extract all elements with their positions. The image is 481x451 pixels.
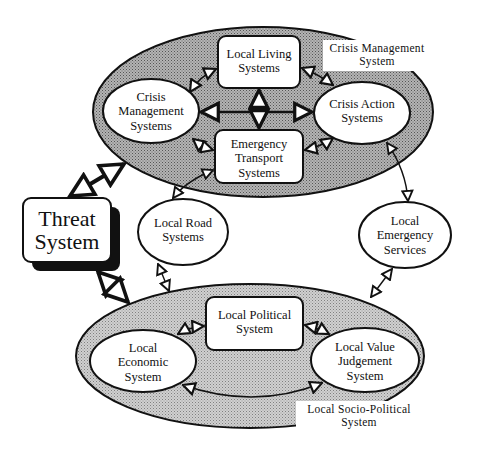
crisis-action-label: Crisis Action Systems <box>314 97 410 126</box>
label-line: Systems <box>103 119 199 133</box>
label-line: Systems <box>314 111 410 125</box>
threat-system-label: Threat System <box>23 207 111 253</box>
edge-threat-socio-group <box>98 272 128 302</box>
local-political-label: Local Political System <box>206 308 303 337</box>
label-line: Economic <box>90 355 196 369</box>
caption-line: System <box>298 416 420 429</box>
edge-threat-crisis-group <box>70 164 124 196</box>
edge-emergency-socio <box>371 269 392 297</box>
label-line: Local Road <box>138 216 228 230</box>
emergency-transport-label: Emergency Transport Systems <box>215 137 303 180</box>
label-line: Emergency <box>215 137 303 151</box>
label-line: Systems <box>138 230 228 244</box>
label-line: System <box>311 369 419 383</box>
label-line: Judgement <box>311 354 419 368</box>
edge-local-road-socio <box>158 264 169 291</box>
label-line: Threat <box>23 207 111 230</box>
label-line: Emergency <box>359 228 451 242</box>
label-line: System <box>23 230 111 253</box>
label-line: Local Value <box>311 340 419 354</box>
label-line: System <box>206 322 303 336</box>
label-line: Local <box>359 214 451 228</box>
caption-line: Local Socio-Political <box>298 403 420 416</box>
crisis-management-systems-label: Crisis Management Systems <box>103 90 199 133</box>
label-line: Crisis <box>103 90 199 104</box>
label-line: Systems <box>218 61 300 75</box>
label-line: Local Political <box>206 308 303 322</box>
caption-line: Crisis Management <box>325 42 429 55</box>
local-economic-label: Local Economic System <box>90 341 196 384</box>
label-line: Management <box>103 104 199 118</box>
label-line: Systems <box>215 166 303 180</box>
label-line: Local <box>90 341 196 355</box>
caption-line: System <box>325 55 429 68</box>
label-line: Services <box>359 243 451 257</box>
local-road-label: Local Road Systems <box>138 216 228 245</box>
label-line: System <box>90 370 196 384</box>
local-living-label: Local Living Systems <box>218 47 300 76</box>
socio-political-group-caption: Local Socio-Political System <box>296 401 422 430</box>
local-emergency-services-label: Local Emergency Services <box>359 214 451 257</box>
crisis-management-group-caption: Crisis Management System <box>323 40 431 71</box>
label-line: Crisis Action <box>314 97 410 111</box>
label-line: Transport <box>215 151 303 165</box>
label-line: Local Living <box>218 47 300 61</box>
local-value-judgement-label: Local Value Judgement System <box>311 340 419 383</box>
